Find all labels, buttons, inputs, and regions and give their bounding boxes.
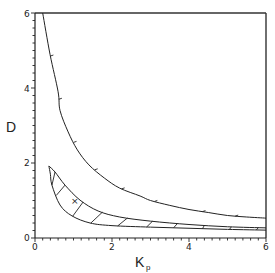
boundary-hatch-mark [95,169,98,170]
region-hatch-line [56,185,65,195]
boundary-hatch-mark [50,55,53,56]
stable-region-upper-edge [49,166,266,228]
y-tick-label-6: 6 [24,9,30,19]
y-axis-label: D [6,119,16,135]
boundary-hatch-mark [122,188,125,189]
chart-plot: 0 2 4 6 0 2 4 6 D K p × [0,0,275,273]
x-tick-label-2: 2 [109,242,115,252]
x-axis-label-subscript: p [146,263,151,272]
boundary-hatch-mark [74,141,77,142]
x-axis-label: K p [135,254,151,272]
x-tick-label-0: 0 [32,242,38,252]
region-hatch-line [91,212,103,223]
region-hatch-line [118,218,128,226]
plot-frame [35,13,266,238]
x-tick-label-6: 6 [263,242,269,252]
region-hatch-line [147,221,153,227]
y-tick-label-0: 0 [24,233,30,243]
boundary-hatch-mark [202,211,205,212]
boundary-hatch-mark [154,200,157,201]
x-tick-label-4: 4 [186,242,192,252]
upper-boundary-curve [43,13,266,218]
operating-point-marker: × [71,196,79,206]
stable-region-lower-edge [49,166,266,230]
region-hatch-line [52,172,55,185]
y-tick-label-2: 2 [24,158,30,168]
region-hatch-line [174,223,178,227]
y-tick-label-4: 4 [24,84,30,94]
x-axis-label-main: K [135,254,145,270]
